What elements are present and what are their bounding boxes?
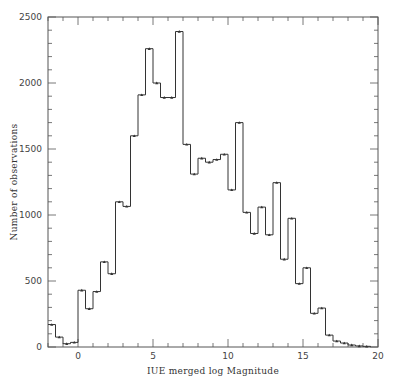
histogram-step-line [48,32,371,347]
x-tick-labels: 05101520 [75,351,384,361]
x-tick-label: 15 [297,351,308,361]
plot-border [48,17,378,347]
y-tick-label: 500 [25,276,42,286]
y-tick-label: 2500 [19,12,42,22]
y-tick-label: 2000 [19,78,42,88]
histogram-chart: 05001000150020002500 05101520 IUE merged… [0,0,395,381]
y-axis-title: Number of observations [9,123,19,240]
x-tick-label: 10 [222,351,234,361]
x-tick-label: 20 [372,351,384,361]
bin-markers [50,30,368,347]
x-axis-title: IUE merged log Magnitude [147,366,279,376]
axis-ticks [48,17,378,347]
y-tick-label: 0 [36,342,42,352]
y-tick-label: 1000 [19,210,42,220]
y-tick-labels: 05001000150020002500 [19,12,42,352]
x-tick-label: 5 [150,351,156,361]
plot-frame [48,17,378,347]
x-tick-label: 0 [75,351,81,361]
y-tick-label: 1500 [19,144,42,154]
